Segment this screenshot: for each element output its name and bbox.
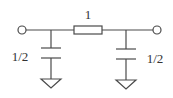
right-capacitor-label: 1/2 bbox=[147, 51, 164, 66]
series-element-icon bbox=[74, 26, 102, 34]
left-capacitor-branch bbox=[41, 30, 61, 88]
ground-icon bbox=[41, 79, 61, 88]
ground-icon bbox=[116, 80, 136, 89]
right-capacitor-branch bbox=[116, 30, 136, 89]
circuit-diagram: 1 1/2 1/2 bbox=[0, 0, 173, 98]
left-capacitor-label: 1/2 bbox=[12, 49, 29, 64]
output-terminal-icon bbox=[153, 26, 161, 34]
series-label: 1 bbox=[85, 7, 92, 22]
input-terminal-icon bbox=[18, 26, 26, 34]
